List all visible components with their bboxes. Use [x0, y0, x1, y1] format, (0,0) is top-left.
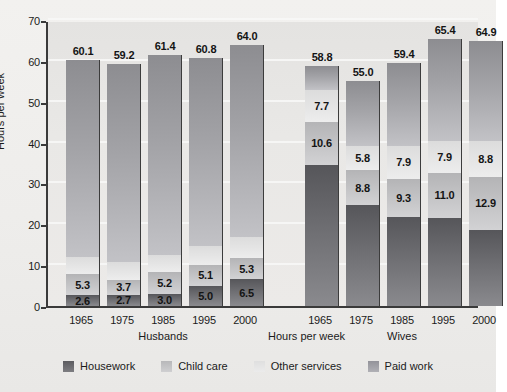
bar-total-label: 64.9	[465, 26, 507, 38]
segment-value-label: 6.5	[230, 287, 263, 299]
bar-segment-childcare[interactable]: 8.8	[346, 170, 379, 206]
segment-value-label: 7.9	[387, 156, 420, 168]
y-axis-tick-label: 10	[14, 260, 40, 272]
bar-segment-childcare[interactable]: 5.2	[148, 272, 181, 293]
bar-segment-other[interactable]	[107, 262, 140, 280]
bar-total-label: 65.4	[424, 24, 466, 36]
bar-segment-childcare[interactable]: 3.7	[107, 280, 140, 295]
legend-item[interactable]: Paid work	[368, 360, 433, 372]
bar-stack[interactable]: 7.99.3	[387, 63, 421, 306]
bar-segment-housework[interactable]	[346, 205, 379, 306]
legend-item[interactable]: Other services	[254, 360, 342, 372]
bar-segment-other[interactable]	[189, 246, 222, 265]
x-axis-group-label: Wives	[342, 330, 462, 342]
bar-segment-other[interactable]	[148, 255, 181, 273]
x-axis-tick-label: 1975	[100, 314, 144, 326]
bar-stack[interactable]: 5.15.0	[189, 58, 223, 306]
y-axis-tick-label: 40	[14, 138, 40, 150]
bar-stack[interactable]: 8.812.9	[469, 41, 503, 306]
chart-legend: HouseworkChild careOther servicesPaid wo…	[0, 356, 496, 376]
bar-segment-housework[interactable]: 6.5	[230, 279, 263, 306]
segment-value-label: 11.0	[428, 189, 461, 201]
bar-segment-childcare[interactable]: 9.3	[387, 179, 420, 217]
bar-stack[interactable]: 7.710.6	[305, 66, 339, 306]
bar-segment-paid[interactable]	[107, 64, 140, 262]
bar-segment-other[interactable]: 7.9	[387, 146, 420, 178]
y-axis-tick-label: 30	[14, 178, 40, 190]
bar-stack[interactable]: 3.72.7	[107, 64, 141, 306]
segment-value-label: 8.8	[469, 153, 502, 165]
bar-segment-housework[interactable]	[469, 230, 502, 306]
bar-stack[interactable]: 7.911.0	[428, 39, 462, 306]
legend-label: Paid work	[385, 360, 433, 372]
legend-item[interactable]: Child care	[161, 360, 228, 372]
bar-segment-childcare[interactable]: 10.6	[305, 122, 338, 165]
segment-value-label: 12.9	[469, 197, 502, 209]
segment-value-label: 5.8	[346, 152, 379, 164]
bar-segment-housework[interactable]: 5.0	[189, 286, 222, 306]
x-axis-tick-label: 1965	[298, 314, 342, 326]
bar-segment-other[interactable]: 7.7	[305, 90, 338, 121]
bar-stack[interactable]: 5.32.6	[66, 60, 100, 306]
x-axis-tick-label: 2000	[223, 314, 267, 326]
segment-value-label: 8.8	[346, 182, 379, 194]
bar-segment-housework[interactable]: 3.0	[148, 294, 181, 306]
legend-label: Child care	[178, 360, 228, 372]
bar-stack[interactable]: 5.88.8	[346, 81, 380, 306]
bar-segment-paid[interactable]	[189, 58, 222, 246]
segment-value-label: 5.3	[230, 263, 263, 275]
segment-value-label: 2.7	[107, 294, 140, 306]
bar-segment-childcare[interactable]: 5.3	[66, 274, 99, 296]
x-axis-tick-label: 2000	[462, 314, 506, 326]
y-axis-tick-label: 0	[14, 301, 40, 313]
y-axis-label: Hours per week	[0, 73, 6, 150]
y-axis-tick-label: 50	[14, 97, 40, 109]
bar-total-label: 59.2	[103, 49, 145, 61]
x-axis-tick-label: 1975	[339, 314, 383, 326]
bar-segment-paid[interactable]	[305, 66, 338, 91]
bar-segment-paid[interactable]	[428, 39, 461, 141]
bar-segment-childcare[interactable]: 5.1	[189, 265, 222, 286]
segment-value-label: 3.0	[148, 294, 181, 306]
bar-segment-housework[interactable]: 2.7	[107, 295, 140, 306]
bar-segment-childcare[interactable]: 12.9	[469, 177, 502, 230]
segment-value-label: 5.2	[148, 277, 181, 289]
plot-area: 5.32.660.13.72.759.25.23.061.45.15.060.8…	[46, 22, 478, 308]
x-axis-tick-label: 1985	[141, 314, 185, 326]
bar-segment-paid[interactable]	[469, 41, 502, 141]
bar-segment-housework[interactable]	[428, 218, 461, 306]
y-axis-tick-mark	[41, 144, 46, 146]
bar-segment-other[interactable]: 8.8	[469, 141, 502, 177]
bar-segment-paid[interactable]	[148, 55, 181, 254]
bar-segment-other[interactable]: 5.8	[346, 146, 379, 170]
gridline	[48, 18, 478, 20]
bar-segment-childcare[interactable]: 5.3	[230, 258, 263, 280]
legend-swatch-paid	[368, 361, 379, 372]
bar-segment-paid[interactable]	[387, 63, 420, 146]
legend-swatch-housework	[63, 361, 74, 372]
y-axis-tick-label: 60	[14, 56, 40, 68]
bar-segment-childcare[interactable]: 11.0	[428, 173, 461, 218]
bar-segment-paid[interactable]	[230, 45, 263, 238]
x-axis-tick-label: 1995	[182, 314, 226, 326]
bar-segment-other[interactable]	[230, 237, 263, 257]
x-axis-tick-label: 1995	[421, 314, 465, 326]
bar-stack[interactable]: 5.36.5	[230, 45, 264, 306]
segment-value-label: 7.7	[305, 100, 338, 112]
bar-segment-other[interactable]	[66, 257, 99, 274]
bar-segment-paid[interactable]	[346, 81, 379, 146]
bar-total-label: 60.1	[62, 45, 104, 57]
bar-segment-other[interactable]: 7.9	[428, 141, 461, 173]
segment-value-label: 5.1	[189, 269, 222, 281]
y-axis-tick-mark	[41, 103, 46, 105]
legend-item[interactable]: Housework	[63, 360, 135, 372]
y-axis-tick-mark	[41, 307, 46, 309]
bar-segment-housework[interactable]	[387, 217, 420, 306]
bar-segment-housework[interactable]	[305, 165, 338, 306]
bar-segment-paid[interactable]	[66, 60, 99, 257]
mid-x-axis-label: Hours per week	[268, 330, 345, 342]
legend-label: Other services	[271, 360, 342, 372]
bar-segment-housework[interactable]: 2.6	[66, 295, 99, 306]
bar-stack[interactable]: 5.23.0	[148, 55, 182, 306]
